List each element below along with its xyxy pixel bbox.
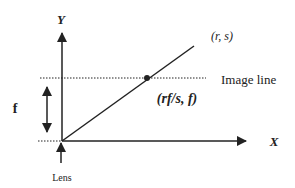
- focal-length-label: f: [13, 101, 18, 116]
- y-axis-label: Y: [57, 12, 66, 27]
- image-point-label: (rf/s, f): [157, 91, 197, 107]
- image-point: [144, 75, 150, 81]
- x-axis-label: X: [269, 134, 279, 149]
- image-line-label: Image line: [221, 72, 276, 87]
- lens-label: Lens: [52, 172, 72, 183]
- projection-diagram: Y X Image line (r, s) (rf/s, f) f Lens: [0, 0, 295, 188]
- far-point-label: (r, s): [211, 29, 233, 43]
